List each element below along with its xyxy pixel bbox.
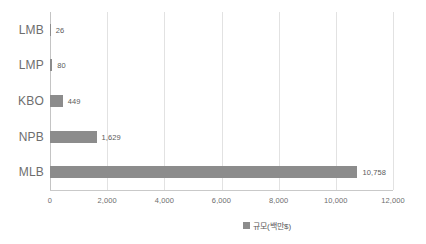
category-label-lmb: LMB	[0, 23, 44, 37]
legend-label: 규모(백만$)	[253, 220, 291, 231]
bar-row: 26	[50, 12, 393, 48]
plot-area: 26804491,62910,758	[50, 12, 393, 190]
bar-value-label: 10,758	[362, 168, 386, 177]
bar-track: 10,758	[50, 166, 393, 178]
x-tick-label: 2,000	[98, 196, 117, 205]
legend-swatch-icon	[243, 222, 250, 229]
chart-legend: 규모(백만$)	[0, 220, 426, 231]
bar-kbo	[50, 95, 63, 107]
x-tick-label: 4,000	[155, 196, 174, 205]
bar-value-label: 449	[68, 96, 81, 105]
bar-chart: 26804491,62910,758 LMBLMPKBONPBMLB 02,00…	[0, 0, 426, 244]
bar-lmb	[50, 24, 51, 36]
bar-track: 80	[50, 59, 393, 71]
category-label-mlb: MLB	[0, 165, 44, 179]
x-axis-line	[50, 190, 393, 191]
x-tick-label: 12,000	[381, 196, 405, 205]
legend-item: 규모(백만$)	[243, 220, 291, 231]
x-tick-label: 0	[48, 196, 52, 205]
bar-lmp	[50, 59, 52, 71]
bar-row: 449	[50, 83, 393, 119]
gridline-12000	[393, 12, 394, 190]
bar-row: 1,629	[50, 119, 393, 155]
bar-row: 80	[50, 48, 393, 84]
bar-value-label: 80	[57, 61, 66, 70]
bar-track: 1,629	[50, 131, 393, 143]
bar-value-label: 26	[56, 25, 65, 34]
bar-track: 449	[50, 95, 393, 107]
bar-mlb	[50, 166, 357, 178]
bar-row: 10,758	[50, 154, 393, 190]
bar-npb	[50, 131, 97, 143]
x-tick-label: 6,000	[212, 196, 231, 205]
x-tick-label: 8,000	[269, 196, 288, 205]
category-label-lmp: LMP	[0, 58, 44, 72]
bar-track: 26	[50, 24, 393, 36]
bar-value-label: 1,629	[102, 132, 121, 141]
category-label-kbo: KBO	[0, 94, 44, 108]
x-tick-label: 10,000	[324, 196, 348, 205]
category-label-npb: NPB	[0, 130, 44, 144]
